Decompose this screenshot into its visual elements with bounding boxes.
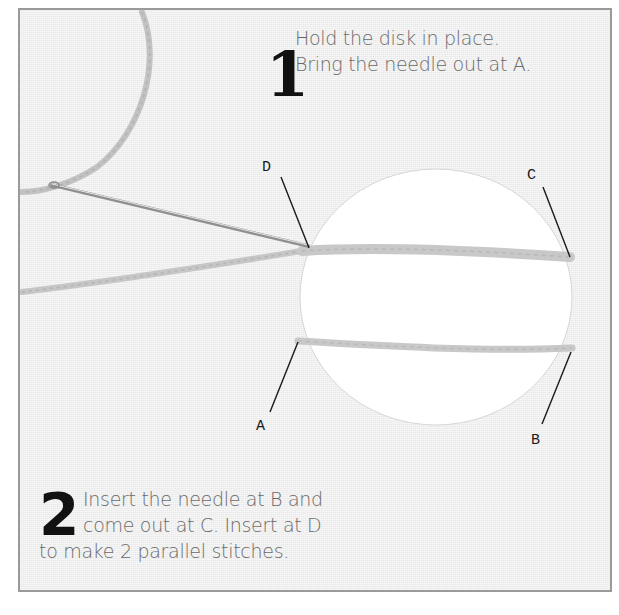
leader-line-d (281, 177, 309, 248)
instruction-panel: D C A B 1 Hold the disk in place. Bring … (18, 8, 612, 592)
step-2-number: 2 (39, 486, 79, 544)
step-2-line-2: come out at C. Insert at D (39, 512, 339, 538)
label-b: B (531, 433, 540, 448)
needle (49, 182, 308, 246)
label-a: A (256, 419, 265, 434)
step-1-line-2: Bring the needle out at A. (295, 51, 595, 77)
step-1-number: 1 (266, 44, 309, 106)
step-2-line-3: to make 2 parallel stitches. (39, 538, 339, 564)
step-1-line-1: Hold the disk in place. (295, 25, 595, 51)
label-d: D (262, 160, 271, 175)
leader-line-a (270, 342, 298, 412)
step-1-instruction: 1 Hold the disk in place. Bring the need… (295, 25, 595, 77)
step-2-instruction: 2 Insert the needle at B and come out at… (39, 486, 339, 564)
step-2-line-1: Insert the needle at B and (39, 486, 339, 512)
thread-loop (22, 12, 150, 192)
label-c: C (527, 168, 536, 183)
white-disk (300, 169, 572, 425)
